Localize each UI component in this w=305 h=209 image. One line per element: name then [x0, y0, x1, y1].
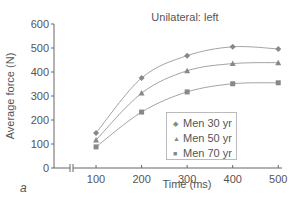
y-tick-label: 600 — [31, 18, 49, 30]
legend-item-50: ▲Men 50 yr — [173, 131, 236, 146]
triangle-icon: ▲ — [173, 132, 181, 146]
y-axis-label: Average force (N) — [4, 53, 16, 140]
x-tick-label: 500 — [269, 173, 287, 185]
diamond-marker — [184, 53, 190, 59]
chart-title: Unilateral: left — [151, 11, 218, 23]
y-tick-label: 500 — [31, 42, 49, 54]
diamond-icon: ◆ — [173, 117, 181, 131]
y-tick-label: 100 — [31, 138, 49, 150]
legend-item-30: ◆Men 30 yr — [173, 116, 236, 131]
y-tick-label: 0 — [43, 162, 49, 174]
x-tick-label: 200 — [132, 173, 150, 185]
triangle-marker — [139, 90, 145, 96]
square-marker — [139, 110, 144, 115]
square-marker — [230, 81, 235, 86]
square-marker — [276, 80, 281, 85]
square-marker — [185, 89, 190, 94]
y-tick-label: 400 — [31, 66, 49, 78]
panel-label: a — [20, 181, 27, 195]
diamond-marker — [230, 44, 236, 50]
square-marker — [94, 144, 99, 149]
square-icon: ■ — [173, 147, 181, 161]
y-tick-label: 200 — [31, 114, 49, 126]
diamond-marker — [275, 46, 281, 52]
chart: Unilateral: left010020030040050060010020… — [0, 0, 305, 209]
legend: ◆Men 30 yr ▲Men 50 yr ■Men 70 yr — [166, 112, 237, 160]
x-tick-label: 100 — [87, 173, 105, 185]
x-axis-label: Time (ms) — [162, 178, 211, 190]
x-tick-label: 400 — [224, 173, 242, 185]
legend-item-70: ■Men 70 yr — [173, 146, 236, 161]
y-tick-label: 300 — [31, 90, 49, 102]
